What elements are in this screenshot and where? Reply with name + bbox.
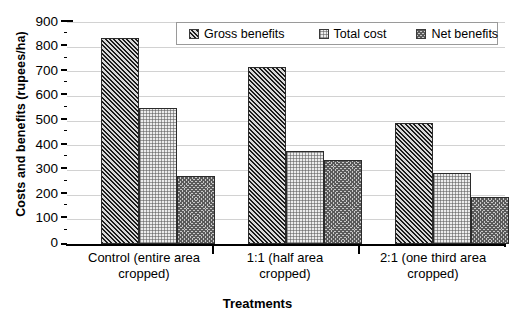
legend-label: Total cost (334, 27, 387, 41)
legend-label: Net benefits (431, 27, 498, 41)
x-category-line: cropped) (74, 266, 214, 282)
x-category-label-1-1: 1:1 (half area cropped) (215, 250, 355, 282)
legend-label: Gross benefits (204, 27, 285, 41)
y-tick-label: 500 (16, 112, 58, 127)
x-axis-line (66, 244, 506, 246)
bar-gross-benefits-1-1 (248, 67, 286, 244)
bar-net-benefits-control (177, 176, 215, 244)
y-tick-label: 400 (16, 137, 58, 152)
y-tick-label: 800 (16, 38, 58, 53)
legend-swatch-icon (416, 29, 426, 39)
legend: Gross benefits Total cost Net benefits (176, 22, 498, 45)
bar-chart: Costs and benefits (rupees/ha) 900 800 7… (0, 0, 515, 322)
x-category-line: 2:1 (one third area (358, 250, 508, 266)
y-tick-label: 600 (16, 87, 58, 102)
legend-item-total-cost: Total cost (319, 27, 387, 41)
bar-gross-benefits-control (101, 38, 139, 244)
y-tick-label: 200 (16, 186, 58, 201)
y-tick-label: 900 (16, 14, 58, 29)
x-category-line: Control (entire area (74, 250, 214, 266)
x-category-label-2-1: 2:1 (one third area cropped) (358, 250, 508, 282)
legend-item-net-benefits: Net benefits (416, 27, 498, 41)
x-category-line: cropped) (358, 266, 508, 282)
bar-total-cost-control (139, 108, 177, 244)
bar-total-cost-1-1 (286, 151, 324, 244)
plot-area (67, 22, 505, 244)
y-tick-label: 0 (16, 235, 58, 250)
x-category-line: cropped) (215, 266, 355, 282)
y-tick-label: 100 (16, 210, 58, 225)
legend-swatch-icon (189, 29, 199, 39)
y-tick-label: 700 (16, 63, 58, 78)
bar-net-benefits-1-1 (324, 160, 362, 244)
bar-net-benefits-2-1 (471, 197, 509, 244)
bar-total-cost-2-1 (433, 173, 471, 244)
legend-item-gross-benefits: Gross benefits (189, 27, 285, 41)
legend-swatch-icon (319, 29, 329, 39)
x-category-line: 1:1 (half area (215, 250, 355, 266)
x-axis-title: Treatments (0, 296, 515, 311)
x-category-label-control: Control (entire area cropped) (74, 250, 214, 282)
bar-gross-benefits-2-1 (395, 123, 433, 244)
y-tick-label: 300 (16, 161, 58, 176)
